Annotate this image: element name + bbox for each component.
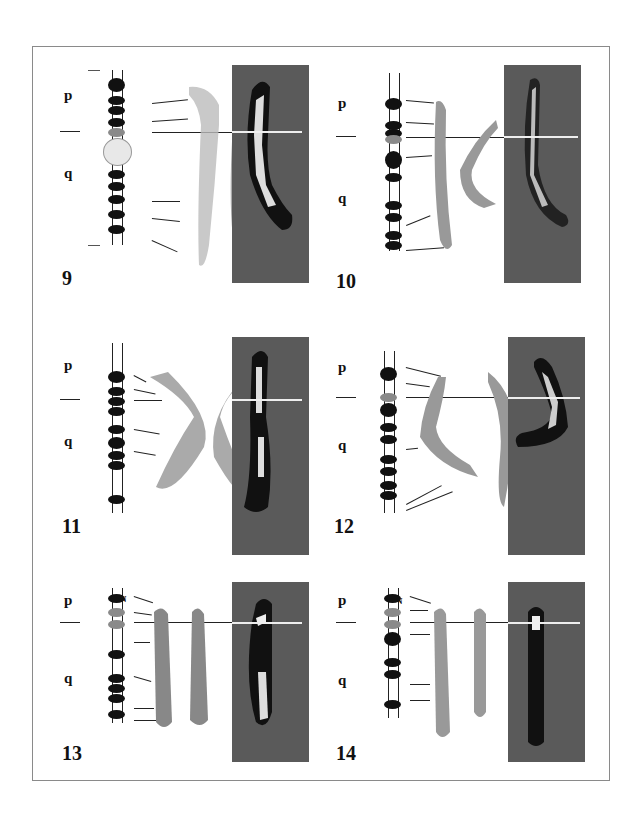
ideogram [389,73,400,251]
q-arm-label: q [338,672,346,689]
ideogram [112,588,123,723]
q-arm-label: q [64,165,72,182]
panel-14: p q N 14 [336,582,596,817]
centromere-line [336,136,356,137]
ideogram [388,588,399,718]
ideogram [112,343,123,513]
p-arm-label: p [338,359,346,376]
centromere-line-white [232,131,302,133]
q-arm-label: q [64,670,72,687]
q-arm-label: q [64,433,72,450]
q-arm-label: q [338,190,346,207]
panel-13: p q N 13 [64,582,324,817]
p-arm-label: p [64,357,72,374]
p-arm-label: p [338,592,346,609]
centromere-line [336,397,356,398]
p-arm-label: p [64,592,72,609]
panel-number: 12 [334,515,354,538]
p-arm-label: p [64,87,72,104]
panel-number: 14 [336,742,356,765]
centromere-line [60,622,80,623]
panel-number: 9 [62,267,72,290]
centromere-line [60,399,80,400]
centromere-line [336,622,356,623]
panel-number: 11 [62,515,81,538]
panel-11: p q 11 [64,337,324,572]
panel-number: 10 [336,270,356,293]
panel-number: 13 [62,742,82,765]
centromere-line [60,131,80,132]
p-arm-label: p [338,95,346,112]
q-arm-label: q [338,437,346,454]
panel-12: p q 12 [336,337,596,572]
panel-9: p q P 9 [64,65,324,300]
ideogram [112,70,123,245]
panel-10: p q 10 [336,65,596,300]
ideogram [384,351,395,513]
